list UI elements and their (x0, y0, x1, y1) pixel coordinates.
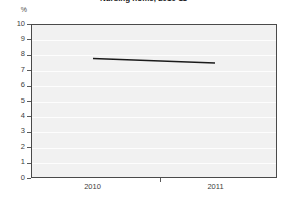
series-line-nursing-home (93, 58, 215, 63)
chart-title: Nursing home, 2010-11 (0, 0, 287, 5)
y-tick-label: 8 (0, 50, 25, 58)
y-tick-label: 0 (0, 174, 25, 182)
y-tick-mark (27, 116, 31, 117)
y-tick-label: 10 (0, 20, 25, 28)
x-tick-label: 2011 (196, 182, 236, 191)
y-tick-mark (27, 178, 31, 179)
y-tick-mark (27, 163, 31, 164)
y-tick-label: 6 (0, 81, 25, 89)
y-tick-label: 3 (0, 127, 25, 135)
y-tick-label: 1 (0, 158, 25, 166)
y-tick-mark (27, 24, 31, 25)
x-tick-label: 2010 (73, 182, 113, 191)
y-tick-mark (27, 55, 31, 56)
y-tick-label: 7 (0, 66, 25, 74)
line-chart-figure: Nursing home, 2010-11 % 012345678910 201… (0, 0, 287, 198)
x-axis-tick-mark (160, 178, 161, 182)
y-axis-unit-label: % (0, 6, 27, 14)
y-tick-mark (27, 70, 31, 71)
y-tick-label: 4 (0, 112, 25, 120)
plot-area (31, 24, 277, 178)
y-tick-mark (27, 101, 31, 102)
y-tick-mark (27, 132, 31, 133)
series-layer (32, 25, 276, 177)
y-tick-label: 2 (0, 143, 25, 151)
y-tick-mark (27, 147, 31, 148)
y-tick-label: 9 (0, 35, 25, 43)
y-tick-mark (27, 39, 31, 40)
y-tick-mark (27, 86, 31, 87)
y-tick-label: 5 (0, 97, 25, 105)
